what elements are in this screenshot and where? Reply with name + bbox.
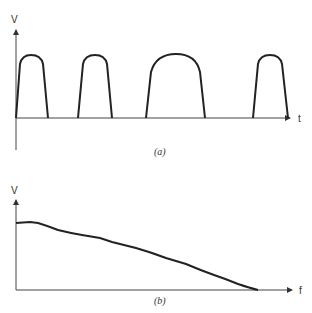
figure-a-caption: (a) [154,146,166,158]
pulse-1 [16,55,48,118]
figure-b-caption: (b) [154,295,166,307]
spectrum-curve [16,222,258,290]
figure-b-y-label: V [11,185,18,196]
pulse-2 [78,55,112,118]
figure-a-y-label: V [11,14,18,25]
figure-a-x-label: t [298,113,301,124]
diagram-canvas: V t (a) V f (b) [0,0,312,313]
figure-b-x-label: f [299,285,302,296]
pulse-3 [146,54,205,118]
figure-a: V t (a) [11,14,301,158]
pulse-4 [253,55,288,118]
figure-b: V f (b) [11,185,302,307]
